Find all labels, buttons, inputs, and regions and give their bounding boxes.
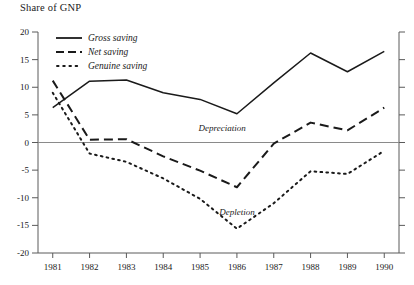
legend-swatch-dotted-icon — [56, 61, 82, 71]
legend-swatch-solid-icon — [56, 33, 82, 43]
chart-legend: Gross saving Net saving Genuine saving — [56, 31, 147, 73]
annotation-depreciation: Depreciation — [199, 123, 246, 133]
legend-label-net-saving: Net saving — [88, 47, 128, 57]
legend-label-genuine-saving: Genuine saving — [88, 61, 147, 71]
chart-figure: Share of GNP 20151050-5-10-15-20 1981198… — [0, 0, 414, 285]
legend-swatch-dashed-icon — [56, 47, 82, 57]
legend-item-net-saving: Net saving — [56, 45, 147, 58]
annotation-depletion: Depletion — [219, 207, 255, 217]
legend-label-gross-saving: Gross saving — [88, 33, 138, 43]
legend-item-genuine-saving: Genuine saving — [56, 59, 147, 72]
legend-item-gross-saving: Gross saving — [56, 31, 147, 44]
series-line-net-saving — [53, 81, 385, 188]
